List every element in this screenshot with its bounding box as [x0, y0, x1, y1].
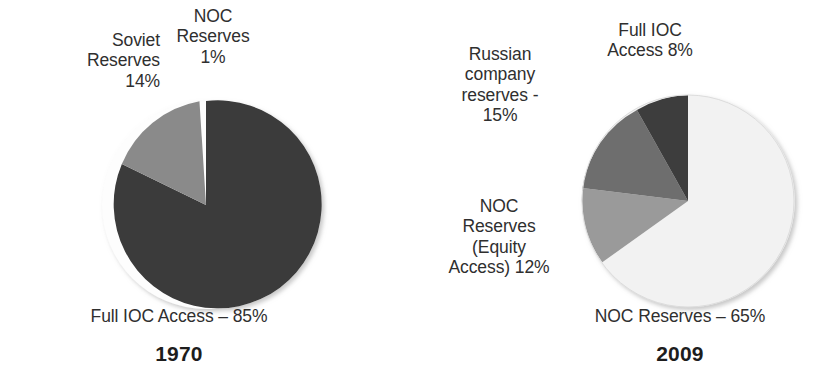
- label-soviet-reserves: Soviet Reserves 14%: [28, 30, 160, 91]
- label-full-ioc-access: Full IOC Access 8%: [585, 20, 715, 61]
- label-noc-reserves: NOC Reserves 1%: [150, 6, 276, 67]
- label-full-ioc-access: Full IOC Access – 85%: [34, 306, 324, 326]
- chart-panel-2009: Full IOC Access 8% Russian company reser…: [414, 0, 827, 389]
- label-russian-company-reserves: Russian company reserves - 15%: [426, 44, 574, 125]
- two-pie-chart-figure: Soviet Reserves 14% NOC Reserves 1% Full…: [0, 0, 827, 389]
- label-noc-reserves-equity-access: NOC Reserves (Equity Access) 12%: [414, 196, 584, 277]
- pie-2009-slices: [582, 95, 795, 307]
- chart-year-1970: 1970: [34, 342, 324, 366]
- chart-year-2009: 2009: [543, 342, 817, 366]
- pie-1970-slices: [102, 100, 322, 309]
- pie-1970-svg: [100, 99, 316, 315]
- pie-chart-2009: [580, 93, 802, 315]
- chart-panel-1970: Soviet Reserves 14% NOC Reserves 1% Full…: [0, 0, 413, 389]
- pie-chart-1970: [100, 99, 316, 315]
- pie-2009-svg: [580, 93, 802, 315]
- label-noc-reserves: NOC Reserves – 65%: [543, 306, 817, 326]
